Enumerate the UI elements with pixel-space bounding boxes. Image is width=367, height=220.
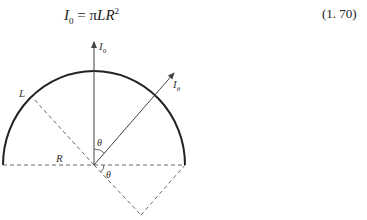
label-theta-lower: θ [106, 169, 111, 180]
angle-arc-upper [94, 149, 105, 153]
label-Itheta: Iθ [172, 78, 181, 93]
lower-dashed-left [94, 165, 141, 215]
lambertian-diagram: I0 Iθ L R θ θ [0, 0, 367, 220]
label-R: R [55, 152, 63, 164]
radius-to-L-dashed [33, 98, 94, 165]
label-L: L [18, 87, 25, 99]
angle-arc-lower [101, 165, 104, 172]
lower-dashed-right [141, 165, 185, 215]
angled-arrow [94, 73, 174, 165]
label-theta-upper: θ [97, 137, 102, 148]
label-I0: I0 [98, 40, 107, 55]
